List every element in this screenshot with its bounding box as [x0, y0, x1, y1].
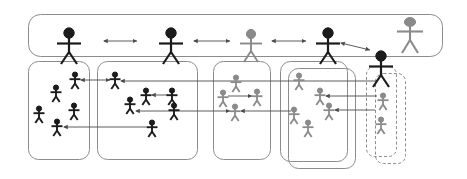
- member-figure-g4-m3[interactable]: [324, 103, 335, 120]
- group-boxes: [29, 62, 406, 169]
- leader-link-4-5[interactable]: [341, 43, 370, 50]
- leader-link-group: [104, 41, 370, 50]
- member-figure-g5-m1[interactable]: [378, 93, 389, 110]
- member-figure-g2-m5[interactable]: [169, 103, 180, 120]
- member-figure-g4-m4[interactable]: [289, 107, 300, 124]
- member-figure-g2-m6[interactable]: [147, 120, 158, 137]
- leader-figure-2[interactable]: [159, 28, 183, 64]
- coordination-bar-outline: [29, 15, 443, 57]
- member-figure-g3-m1[interactable]: [231, 75, 242, 92]
- member-figure-g3-m4[interactable]: [230, 104, 241, 121]
- diagram-svg: [0, 0, 467, 179]
- member-figure-g1-m2[interactable]: [51, 85, 62, 102]
- member-figure-g4-m1[interactable]: [294, 73, 305, 90]
- member-figure-g1-m3[interactable]: [34, 106, 45, 123]
- group-4-box[interactable]: [281, 62, 348, 162]
- leader-figure-1[interactable]: [57, 28, 81, 64]
- group-3-box[interactable]: [214, 62, 271, 160]
- coordination-bar[interactable]: [29, 15, 443, 57]
- member-figure-g2-m2[interactable]: [141, 88, 152, 105]
- member-figure-g4-m2[interactable]: [315, 88, 326, 105]
- group-5-box[interactable]: [367, 67, 397, 157]
- member-figure-g4-m5[interactable]: [303, 120, 314, 137]
- leader-figures: [57, 18, 423, 87]
- diagram-canvas: [0, 0, 467, 179]
- member-figure-g3-m2[interactable]: [218, 90, 229, 107]
- member-figure-g3-m3[interactable]: [252, 89, 263, 106]
- member-figure-g2-m1[interactable]: [110, 72, 121, 89]
- leader-figure-6[interactable]: [397, 18, 423, 53]
- member-figure-g1-m1[interactable]: [70, 72, 81, 89]
- leader-figure-3[interactable]: [240, 29, 262, 62]
- member-figure-g1-m4[interactable]: [69, 103, 80, 120]
- member-figure-g2-m4[interactable]: [167, 88, 178, 105]
- leader-figure-4[interactable]: [316, 28, 340, 64]
- member-figure-g5-m2[interactable]: [376, 117, 387, 134]
- member-figure-g2-m3[interactable]: [125, 97, 136, 114]
- member-figure-g1-m5[interactable]: [52, 119, 63, 136]
